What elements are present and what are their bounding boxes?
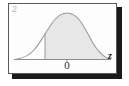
figure-frame: 2 0 z — [8, 3, 117, 74]
origin-tick-label: 0 — [60, 60, 74, 71]
axis-label-z: z — [108, 51, 112, 61]
figure-container: 2 0 z — [0, 0, 129, 86]
